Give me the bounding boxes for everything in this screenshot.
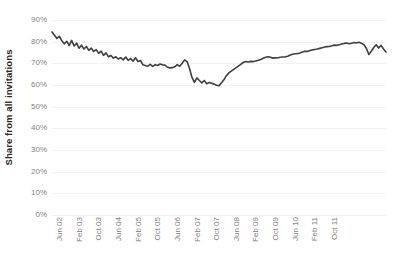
x-axis-tick-label: Jun 08 — [232, 217, 241, 241]
x-axis-tick-label: Feb 05 — [134, 217, 143, 242]
x-axis-tick-label: Oct 09 — [271, 217, 280, 241]
y-axis-tick-label: 40% — [31, 124, 47, 132]
x-axis-tick-label-text: Jun 04 — [114, 217, 123, 241]
y-axis-tick-label: 90% — [31, 16, 47, 24]
x-axis-tick-label-text: Oct 05 — [153, 217, 162, 241]
chart-container: Share from all invitations 90%80%70%60%5… — [0, 0, 394, 258]
x-axis-tick-label-text: Feb 07 — [193, 217, 202, 242]
x-axis-tick-label: Feb 11 — [310, 217, 319, 241]
x-axis-tick-label: Feb 07 — [193, 217, 202, 242]
x-axis-tick-label: Jun 02 — [55, 217, 64, 241]
x-axis-tick-labels: Jun 02Feb 03Oct 03Jun 04Feb 05Oct 05Jun … — [52, 215, 386, 258]
y-axis-tick-label: 70% — [31, 59, 47, 67]
x-axis-tick-label: Jun 10 — [291, 217, 300, 241]
x-axis-tick-label-text: Jun 10 — [291, 217, 300, 241]
y-axis-title-label: Share from all invitations — [3, 49, 14, 165]
x-axis-tick-label-text: Oct 07 — [212, 217, 221, 241]
y-axis-tick-label: 30% — [31, 146, 47, 154]
x-axis-tick-label-text: Oct 09 — [271, 217, 280, 241]
x-axis-tick-label: Jun 06 — [173, 217, 182, 241]
y-axis-tick-label: 50% — [31, 103, 47, 111]
x-axis-tick-label: Jun 04 — [114, 217, 123, 241]
x-axis-tick-label: Feb 03 — [75, 217, 84, 242]
x-axis-tick-label-text: Feb 09 — [251, 217, 260, 242]
x-axis-tick-label: Feb 09 — [251, 217, 260, 242]
series-line-chart — [52, 20, 386, 215]
series-line-path — [52, 32, 386, 86]
plot-area — [52, 20, 386, 215]
y-axis-tick-labels: 90%80%70%60%50%40%30%20%10%0% — [18, 0, 50, 226]
x-axis-tick-label-text: Oct 03 — [94, 217, 103, 241]
y-axis-tick-label: 0% — [35, 211, 47, 219]
y-axis-tick-label: 10% — [31, 189, 47, 197]
x-axis-tick-label-text: Jun 02 — [55, 217, 64, 241]
x-axis-tick-label-text: Jun 08 — [232, 217, 241, 241]
y-axis-title: Share from all invitations — [0, 0, 16, 215]
y-axis-tick-label: 80% — [31, 38, 47, 46]
x-axis-tick-label: Oct 05 — [153, 217, 162, 241]
x-axis-tick-label-text: Feb 11 — [310, 217, 319, 241]
y-axis-tick-label: 20% — [31, 168, 47, 176]
x-axis-tick-label-text: Oct 11 — [330, 217, 339, 240]
x-axis-tick-label-text: Feb 03 — [75, 217, 84, 242]
x-axis-tick-label: Oct 03 — [94, 217, 103, 241]
x-axis-tick-label-text: Jun 06 — [173, 217, 182, 241]
y-axis-tick-label: 60% — [31, 81, 47, 89]
x-axis-tick-label: Oct 07 — [212, 217, 221, 241]
x-axis-tick-label: Oct 11 — [330, 217, 339, 240]
x-axis-tick-label-text: Feb 05 — [134, 217, 143, 242]
